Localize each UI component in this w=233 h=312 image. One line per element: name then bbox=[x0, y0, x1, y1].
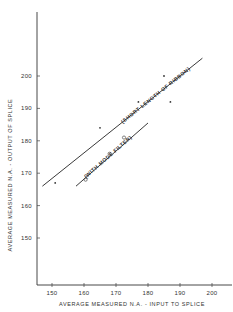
y-tick-label: 160 bbox=[21, 203, 32, 209]
axes bbox=[37, 12, 232, 285]
y-tick-label: 180 bbox=[21, 138, 32, 144]
ticks: 150160170180190200150160170180190200 bbox=[21, 73, 218, 296]
x-axis-title: AVERAGE MEASURED N.A. - INPUT TO SPLICE bbox=[59, 301, 205, 307]
data-point bbox=[54, 182, 56, 184]
x-tick-label: 150 bbox=[47, 290, 58, 296]
y-tick-label: 190 bbox=[21, 105, 32, 111]
x-tick-label: 200 bbox=[207, 290, 218, 296]
data-point bbox=[138, 101, 140, 103]
y-tick-label: 200 bbox=[21, 73, 32, 79]
fit-lines: (SHORT LENGTH OF RIBBON)(WITH MODE FILTE… bbox=[42, 58, 202, 186]
x-tick-label: 170 bbox=[111, 290, 122, 296]
y-axis-title: AVERAGE MEASURED N.A. - OUTPUT OF SPLICE bbox=[7, 99, 13, 252]
x-tick-label: 180 bbox=[143, 290, 154, 296]
y-tick-label: 150 bbox=[21, 235, 32, 241]
data-point bbox=[170, 101, 172, 103]
y-tick-label: 170 bbox=[21, 170, 32, 176]
x-tick-label: 160 bbox=[79, 290, 90, 296]
chart: 150160170180190200150160170180190200 (SH… bbox=[0, 0, 233, 312]
x-tick-label: 190 bbox=[175, 290, 186, 296]
data-point bbox=[99, 127, 101, 129]
mode-filter-fit-label: (WITH MODE FILTER) bbox=[83, 134, 134, 179]
data-point bbox=[163, 75, 165, 77]
short-length-fit-label: (SHORT LENGTH OF RIBBON) bbox=[120, 65, 192, 124]
